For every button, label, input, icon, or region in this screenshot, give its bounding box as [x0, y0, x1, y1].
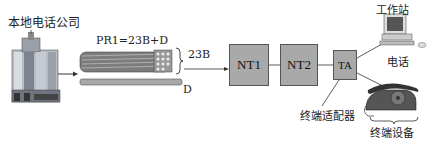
nt1-box: NT1 [229, 44, 269, 86]
cable-bundle-icon [80, 50, 182, 85]
telephone-icon [364, 83, 418, 116]
b-channels-label: 23B [188, 48, 210, 61]
ta-box: TA [333, 50, 357, 80]
nt2-box: NT2 [280, 44, 318, 86]
workstation-label: 工作站 [376, 1, 409, 17]
building-icon [12, 30, 60, 102]
workstation-icon [380, 14, 426, 48]
d-channel-label: D [183, 83, 192, 96]
central-office-label: 本地电话公司 [8, 13, 80, 30]
terminal-adapter-label: 终端适配器 [300, 107, 355, 123]
phone-label: 电话 [387, 53, 409, 69]
terminal-equipment-label: 终端设备 [370, 124, 414, 140]
pri-formula-label: PR1=23B+D [96, 34, 168, 47]
